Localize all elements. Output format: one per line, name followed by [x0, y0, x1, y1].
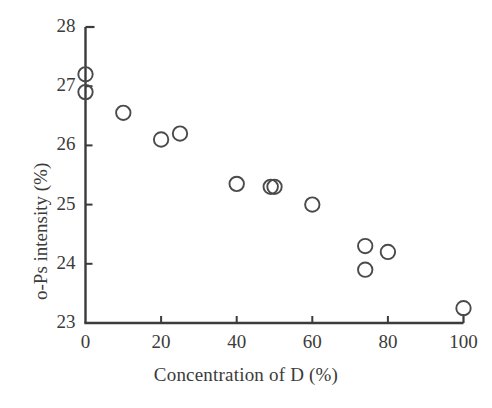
x-tick-label: 100	[444, 331, 484, 353]
y-axis-label: o-Ps intensity (%)	[30, 163, 52, 300]
y-tick-label: 26	[46, 133, 76, 155]
data-point	[173, 126, 187, 140]
data-point	[381, 245, 395, 259]
scatter-chart: o-Ps intensity (%) Concentration of D (%…	[0, 0, 492, 408]
x-axis-label: Concentration of D (%)	[0, 364, 492, 386]
data-point	[456, 301, 470, 315]
data-point	[154, 132, 168, 146]
data-point	[230, 177, 244, 191]
data-point	[305, 197, 319, 211]
y-axis-label-container: o-Ps intensity (%)	[0, 0, 40, 330]
axis-lines	[84, 27, 463, 323]
x-tick-label: 40	[217, 331, 257, 353]
data-point	[358, 263, 372, 277]
tick-marks	[86, 86, 388, 323]
x-tick-label: 60	[292, 331, 332, 353]
x-tick-label: 80	[368, 331, 408, 353]
y-tick-label: 24	[46, 252, 76, 274]
y-tick-label: 28	[46, 15, 76, 37]
y-tick-label: 23	[46, 311, 76, 333]
x-tick-label: 20	[141, 331, 181, 353]
data-point	[267, 180, 281, 194]
data-point	[78, 85, 92, 99]
data-markers	[78, 67, 470, 315]
y-tick-label: 27	[46, 74, 76, 96]
y-tick-label: 25	[46, 193, 76, 215]
data-point	[116, 106, 130, 120]
data-point	[78, 67, 92, 81]
x-tick-label: 0	[66, 331, 106, 353]
data-point	[358, 239, 372, 253]
